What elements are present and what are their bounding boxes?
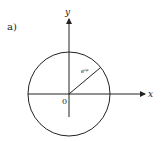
y-axis-label: y [64,7,71,17]
origin-label: 0 [62,97,67,106]
unit-circle-diagram: a) y x 0 eⁱᵠ [0,0,161,141]
x-axis-label: x [148,89,153,99]
panel-label: a) [7,21,17,32]
radius-label: eⁱᵠ [81,67,89,74]
